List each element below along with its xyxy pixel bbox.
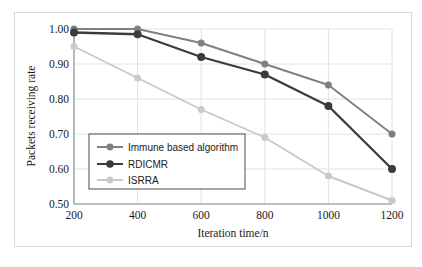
data-point bbox=[325, 173, 332, 180]
x-tick-label: 800 bbox=[256, 209, 274, 221]
data-point bbox=[389, 131, 396, 138]
x-tick-label: 400 bbox=[129, 209, 147, 221]
x-tick-labels: 200 400 600 800 1000 1200 bbox=[65, 209, 403, 221]
data-point bbox=[134, 30, 142, 38]
y-axis-title: Packets receiving rate bbox=[25, 66, 38, 167]
legend-marker-icon bbox=[107, 177, 114, 184]
y-tick-label: 0.60 bbox=[49, 163, 69, 175]
data-point bbox=[324, 102, 332, 110]
figure-frame: 1.00 0.90 0.80 0.70 0.60 0.50 200 400 60… bbox=[14, 12, 412, 247]
y-tick-label: 0.70 bbox=[49, 128, 69, 140]
legend-label: Immune based algorithm bbox=[128, 142, 238, 153]
data-point bbox=[70, 29, 78, 37]
data-point bbox=[388, 165, 396, 173]
x-axis-title: Iteration time/n bbox=[197, 227, 268, 239]
data-point bbox=[197, 53, 205, 61]
y-tick-label: 0.80 bbox=[49, 93, 69, 105]
y-tick-label: 0.90 bbox=[49, 58, 69, 70]
legend-label: RDICMR bbox=[128, 159, 168, 170]
data-point bbox=[198, 106, 205, 113]
data-point bbox=[261, 61, 268, 68]
legend-marker-icon bbox=[106, 160, 114, 168]
legend: Immune based algorithm RDICMR ISRRA bbox=[89, 134, 245, 189]
x-tick-label: 1000 bbox=[317, 209, 340, 221]
data-point bbox=[198, 40, 205, 47]
data-point bbox=[389, 197, 396, 204]
x-tick-label: 200 bbox=[65, 209, 83, 221]
legend-marker-icon bbox=[107, 144, 114, 151]
x-tick-label: 600 bbox=[193, 209, 211, 221]
legend-label: ISRRA bbox=[128, 175, 159, 186]
data-point bbox=[261, 71, 269, 79]
line-chart: 1.00 0.90 0.80 0.70 0.60 0.50 200 400 60… bbox=[15, 13, 411, 246]
data-point bbox=[261, 134, 268, 141]
data-point bbox=[71, 43, 78, 50]
y-tick-labels: 1.00 0.90 0.80 0.70 0.60 0.50 bbox=[49, 23, 69, 210]
data-point bbox=[325, 82, 332, 89]
y-tick-label: 1.00 bbox=[49, 23, 69, 35]
x-tick-label: 1200 bbox=[381, 209, 404, 221]
data-point bbox=[134, 75, 141, 82]
